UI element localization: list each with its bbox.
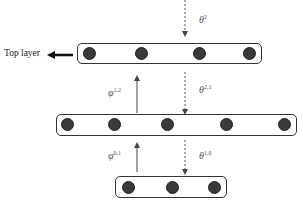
node — [243, 47, 256, 60]
top-layer — [77, 43, 262, 64]
node — [83, 47, 96, 60]
node — [208, 181, 221, 194]
label-phi-1-2: φ1,2 — [108, 87, 121, 98]
node — [278, 118, 291, 131]
label-phi-0-1: φ0,1 — [108, 150, 121, 161]
node — [61, 118, 74, 131]
label-theta-2: θ2 — [199, 14, 207, 25]
node — [108, 118, 121, 131]
top-layer-label: Top layer — [4, 48, 40, 58]
middle-layer — [56, 114, 297, 136]
node — [122, 181, 135, 194]
label-theta-1-0: θ1,0 — [199, 150, 211, 161]
bottom-layer — [115, 176, 227, 198]
node — [193, 47, 206, 60]
label-theta-2-1: θ2,1 — [199, 84, 211, 95]
node — [135, 47, 148, 60]
node — [166, 181, 179, 194]
node — [220, 118, 233, 131]
node — [161, 118, 174, 131]
